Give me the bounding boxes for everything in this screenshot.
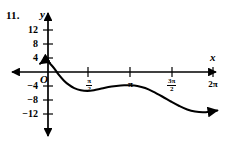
x-tick-label: π2 — [80, 78, 98, 93]
y-tick-label: −8 — [12, 95, 38, 105]
graph-figure: 11. y x O 1284−4−8−12 π2π3π22π — [0, 0, 227, 147]
x-tick-label: 2π — [202, 80, 224, 89]
x-axis-label: x — [210, 52, 216, 63]
x-tick-label: π — [120, 80, 142, 89]
origin-label: O — [40, 74, 48, 85]
x-tick-label: 3π2 — [163, 78, 181, 93]
problem-number: 11. — [6, 10, 20, 21]
coordinate-plane — [0, 0, 227, 147]
y-tick-label: 12 — [12, 25, 38, 35]
y-tick-label: −4 — [12, 81, 38, 91]
y-axis-label: y — [40, 9, 45, 20]
y-tick-label: −12 — [12, 109, 38, 119]
y-tick-label: 8 — [12, 39, 38, 49]
y-tick-label: 4 — [12, 53, 38, 63]
